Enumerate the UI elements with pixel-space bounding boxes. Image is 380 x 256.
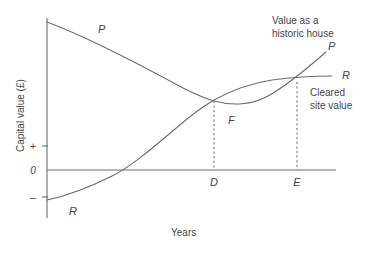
- x-axis-title: Years: [171, 227, 196, 238]
- curve-r-cleared-site: [47, 76, 332, 200]
- chart-figure: Capital value (£) Years + 0 – D E P P R …: [0, 0, 380, 256]
- y-tick-label-plus: +: [30, 141, 36, 152]
- annotation-historic-house-line2: historic house: [272, 28, 334, 39]
- y-axis-title: Capital value (£): [15, 79, 26, 152]
- x-tick-label-d: D: [210, 176, 218, 188]
- curve-label-p-left: P: [98, 23, 106, 35]
- x-tick-label-e: E: [293, 176, 301, 188]
- curve-label-r-left: R: [69, 205, 77, 217]
- annotation-historic-house-line1: Value as a: [272, 15, 319, 26]
- annotation-cleared-site-line2: site value: [310, 100, 353, 111]
- curve-label-r-right: R: [342, 69, 350, 81]
- annotation-cleared-site-line1: Cleared: [310, 87, 345, 98]
- chart-svg: Capital value (£) Years + 0 – D E P P R …: [0, 0, 380, 256]
- region-label-f: F: [228, 114, 236, 126]
- curve-label-p-right: P: [328, 40, 336, 52]
- y-tick-label-minus: –: [29, 192, 36, 203]
- y-tick-label-zero: 0: [30, 165, 36, 176]
